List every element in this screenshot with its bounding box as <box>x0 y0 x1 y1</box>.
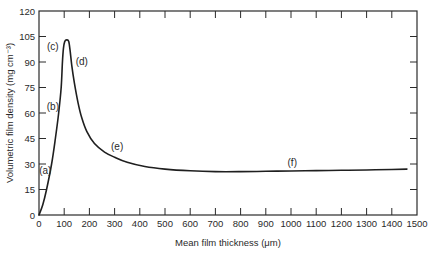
x-tick-label: 500 <box>157 218 173 229</box>
y-tick-label: 105 <box>19 31 35 42</box>
segment-labels: (a)(b)(c)(d)(e)(f) <box>39 41 297 176</box>
x-tick-label: 1300 <box>356 218 377 229</box>
y-tick-label: 45 <box>24 133 35 144</box>
ticks <box>39 11 417 215</box>
y-tick-label: 60 <box>24 108 35 119</box>
density-curve <box>39 40 407 215</box>
segment-label: (f) <box>288 157 297 168</box>
y-tick-label: 30 <box>24 159 35 170</box>
x-tick-label: 200 <box>81 218 97 229</box>
x-tick-label: 1500 <box>406 218 427 229</box>
x-tick-label: 600 <box>182 218 198 229</box>
segment-label: (b) <box>47 101 59 112</box>
plot-frame <box>39 11 417 215</box>
y-tick-label: 90 <box>24 57 35 68</box>
segment-label: (a) <box>39 165 51 176</box>
x-tick-label: 1400 <box>381 218 402 229</box>
x-tick-label: 300 <box>107 218 123 229</box>
segment-label: (c) <box>47 41 59 52</box>
x-tick-label: 700 <box>207 218 223 229</box>
segment-label: (d) <box>76 56 88 67</box>
x-tick-label: 1000 <box>280 218 301 229</box>
x-axis-title: Mean film thickness (μm) <box>175 237 281 248</box>
x-tick-labels: 0100200300400500600700800900100011001200… <box>36 218 427 229</box>
x-tick-label: 800 <box>233 218 249 229</box>
y-tick-label: 120 <box>19 6 35 17</box>
y-tick-label: 0 <box>30 210 35 221</box>
y-axis-title: Volumetric film density (mg cm⁻³) <box>4 43 15 183</box>
x-tick-label: 1200 <box>331 218 352 229</box>
x-tick-label: 400 <box>132 218 148 229</box>
y-tick-label: 75 <box>24 82 35 93</box>
y-tick-label: 15 <box>24 184 35 195</box>
x-tick-label: 1100 <box>306 218 326 229</box>
y-tick-labels: 0153045607590105120 <box>19 6 35 221</box>
x-tick-label: 900 <box>258 218 274 229</box>
chart: 0100200300400500600700800900100011001200… <box>0 0 431 254</box>
segment-label: (e) <box>111 141 123 152</box>
x-tick-label: 0 <box>36 218 41 229</box>
x-tick-label: 100 <box>56 218 72 229</box>
